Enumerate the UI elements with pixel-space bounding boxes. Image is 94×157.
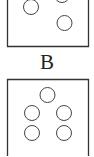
top-panel bbox=[8, 0, 89, 47]
circle bbox=[25, 126, 40, 141]
top-panel-border bbox=[8, 0, 89, 47]
bottom-panel bbox=[8, 80, 89, 157]
circle bbox=[24, 0, 39, 15]
circle bbox=[57, 16, 72, 31]
circle bbox=[57, 126, 72, 141]
circle bbox=[55, 0, 70, 3]
diagram-canvas bbox=[0, 0, 94, 156]
bottom-panel-border bbox=[8, 80, 89, 157]
circle bbox=[25, 106, 40, 121]
circle bbox=[57, 106, 72, 121]
circle bbox=[40, 88, 55, 103]
panel-label: B bbox=[0, 50, 94, 74]
